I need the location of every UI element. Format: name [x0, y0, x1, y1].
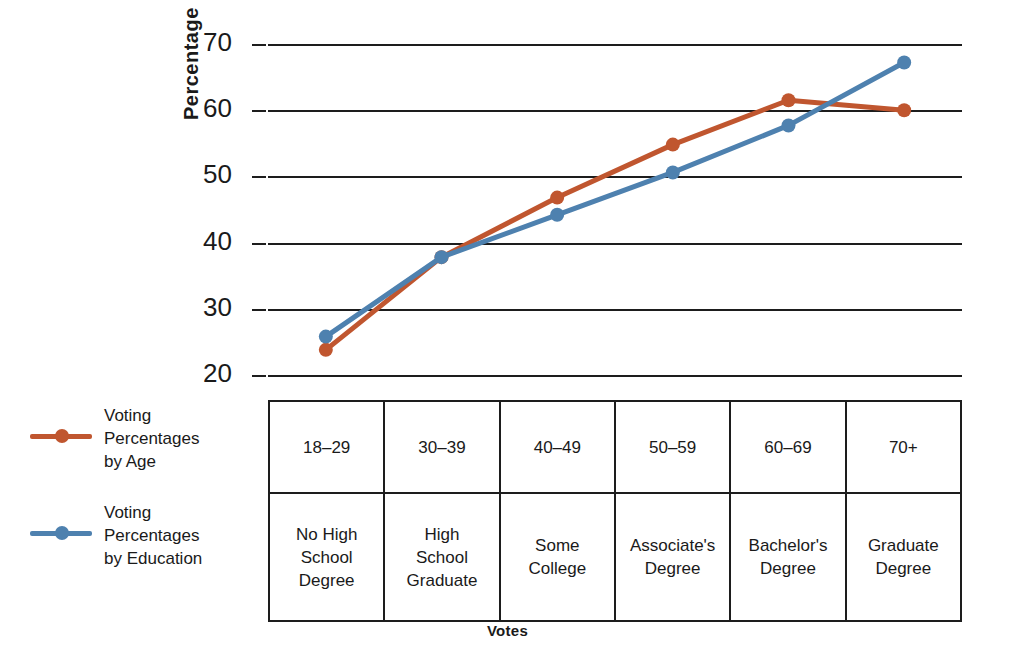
data-point-marker [666, 138, 680, 152]
table-row: No High School Degree High School Gradua… [269, 493, 961, 621]
y-axis-tick-mark [252, 309, 266, 311]
y-axis-tick-label: 40 [178, 228, 232, 254]
gridline [268, 176, 962, 178]
data-point-marker [782, 118, 796, 132]
legend-label-education: Voting Percentages by Education [104, 501, 202, 570]
y-axis-tick-label: 70 [178, 29, 232, 55]
series-line [326, 63, 904, 337]
gridline [268, 309, 962, 311]
y-axis-tick-label: 50 [178, 161, 232, 187]
table-cell: Some College [500, 493, 615, 621]
data-point-marker [435, 250, 449, 264]
y-axis-tick-label: 20 [178, 360, 232, 386]
legend-item-age: Voting Percentages by Age [30, 404, 260, 473]
table-cell: 50–59 [615, 401, 730, 493]
y-axis-tick-label: 30 [178, 294, 232, 320]
data-point-marker [435, 250, 449, 264]
data-point-marker [550, 191, 564, 205]
data-point-marker [319, 343, 333, 357]
data-point-marker [782, 93, 796, 107]
y-axis-tick-mark [252, 176, 266, 178]
table-cell: 60–69 [730, 401, 845, 493]
legend-item-education: Voting Percentages by Education [30, 501, 260, 570]
category-table: 18–29 30–39 40–49 50–59 60–69 70+ No Hig… [268, 400, 962, 622]
table-cell: 40–49 [500, 401, 615, 493]
table-row: 18–29 30–39 40–49 50–59 60–69 70+ [269, 401, 961, 493]
table-cell: High School Graduate [384, 493, 499, 621]
y-axis-tick-label: 60 [178, 95, 232, 121]
series-line [326, 100, 904, 350]
table-cell: No High School Degree [269, 493, 384, 621]
gridline [268, 243, 962, 245]
y-axis-tick-mark [252, 243, 266, 245]
chart-legend: Voting Percentages by Age Voting Percent… [30, 404, 260, 598]
y-axis-tick-mark [252, 110, 266, 112]
table-cell: Associate's Degree [615, 493, 730, 621]
table-cell: 70+ [846, 401, 961, 493]
table-cell: 18–29 [269, 401, 384, 493]
chart-figure: Percentage 706050403020 Votes Voting Per… [0, 0, 1015, 654]
table-cell: Graduate Degree [846, 493, 961, 621]
table-cell: 30–39 [384, 401, 499, 493]
y-axis-tick-mark [252, 44, 266, 46]
legend-label-age: Voting Percentages by Age [104, 404, 199, 473]
data-point-marker [319, 330, 333, 344]
legend-swatch-education-icon [30, 523, 92, 543]
legend-swatch-age-icon [30, 426, 92, 446]
data-point-marker [550, 208, 564, 222]
gridline [268, 375, 962, 377]
x-axis-label: Votes [0, 622, 1015, 639]
y-axis-tick-mark [252, 375, 266, 377]
gridline [268, 44, 962, 46]
data-point-marker [897, 56, 911, 70]
gridline [268, 110, 962, 112]
table-cell: Bachelor's Degree [730, 493, 845, 621]
